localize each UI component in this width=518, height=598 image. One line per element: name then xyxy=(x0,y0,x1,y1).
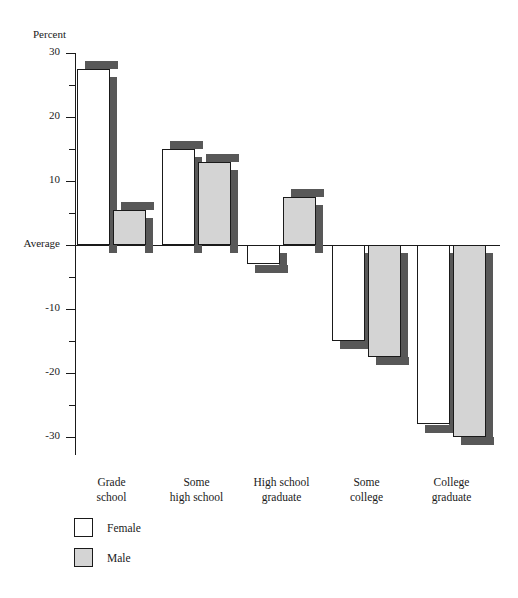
y-tick-major xyxy=(66,309,75,310)
bar-shadow-side xyxy=(145,218,153,253)
y-tick-label: 30 xyxy=(0,45,60,57)
y-tick-major xyxy=(66,437,75,438)
bar-shadow-top xyxy=(291,189,324,197)
y-tick-label: 10 xyxy=(0,173,60,185)
legend-label-female: Female xyxy=(107,522,141,534)
legend-item-female: Female xyxy=(74,518,141,537)
bar-female xyxy=(247,245,280,264)
bar-shadow-top xyxy=(170,141,203,149)
legend-label-male: Male xyxy=(107,552,131,564)
bar-male xyxy=(113,210,146,245)
bar-shadow-side xyxy=(485,253,493,445)
y-tick-minor xyxy=(69,149,75,150)
bar-male xyxy=(198,162,231,245)
bar-shadow-top xyxy=(461,437,494,445)
bar-male xyxy=(368,245,401,357)
legend-item-male: Male xyxy=(74,548,141,567)
bar-shadow-top xyxy=(121,202,154,210)
bar-shadow-top xyxy=(85,61,118,69)
legend-swatch-male xyxy=(74,548,93,567)
y-tick-minor xyxy=(69,85,75,86)
legend-swatch-female xyxy=(74,518,93,537)
y-tick-label: -20 xyxy=(0,365,60,377)
bar-male xyxy=(283,197,316,245)
bar-shadow-top xyxy=(255,265,288,273)
y-tick-major xyxy=(66,53,75,54)
x-axis-label: Collegegraduate xyxy=(382,475,518,504)
y-tick-minor xyxy=(69,405,75,406)
bar-shadow-side xyxy=(230,170,238,253)
bar-shadow-side xyxy=(400,253,408,365)
y-axis-title: Percent xyxy=(33,28,66,40)
y-tick-major xyxy=(66,181,75,182)
y-tick-minor xyxy=(69,341,75,342)
y-tick-label: -10 xyxy=(0,301,60,313)
y-tick-label: 20 xyxy=(0,109,60,121)
y-tick-major xyxy=(66,245,75,246)
bar-shadow-top xyxy=(206,154,239,162)
bar-male xyxy=(453,245,486,437)
bar-female xyxy=(162,149,195,245)
bar-female xyxy=(417,245,450,424)
bar-shadow-side xyxy=(315,205,323,253)
y-tick-minor xyxy=(69,277,75,278)
bar-female xyxy=(332,245,365,341)
y-tick-label: -30 xyxy=(0,429,60,441)
y-tick-label: Average xyxy=(0,237,60,249)
bar-shadow-top xyxy=(376,357,409,365)
y-tick-minor xyxy=(69,213,75,214)
bar-female xyxy=(77,69,110,245)
education-percent-bar-chart: Percent 302010Average-10-20-30 Gradescho… xyxy=(0,0,518,598)
y-tick-major xyxy=(66,117,75,118)
chart-legend: Female Male xyxy=(74,518,141,578)
y-tick-major xyxy=(66,373,75,374)
